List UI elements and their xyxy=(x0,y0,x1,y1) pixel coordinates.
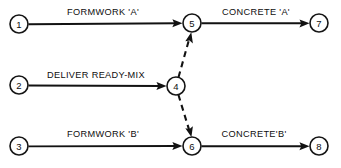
edge-label-formwork-b: FORMWORK 'B' xyxy=(67,129,139,139)
edge-dummy-4-to-5[interactable] xyxy=(179,32,193,77)
edge-line-4-to-5 xyxy=(179,38,190,78)
node-label-1: 1 xyxy=(16,19,21,30)
network-diagram-svg: 1 2 3 4 5 6 xyxy=(0,0,341,168)
network-diagram-canvas: 1 2 3 4 5 6 xyxy=(0,0,341,168)
node-2[interactable]: 2 xyxy=(10,76,28,94)
node-label-7: 7 xyxy=(316,18,321,29)
node-label-6: 6 xyxy=(189,141,194,152)
edge-formwork-a[interactable] xyxy=(29,19,183,27)
edge-label-concrete-b: CONCRETE'B' xyxy=(221,129,286,139)
node-5[interactable]: 5 xyxy=(183,14,201,32)
node-7[interactable]: 7 xyxy=(310,14,328,32)
node-label-5: 5 xyxy=(189,18,194,29)
edge-line-2-to-4 xyxy=(29,86,162,87)
node-3[interactable]: 3 xyxy=(10,137,28,155)
edge-label-formwork-a: FORMWORK 'A' xyxy=(67,7,139,17)
edge-deliver-ready-mix[interactable] xyxy=(29,82,167,90)
node-label-3: 3 xyxy=(16,141,21,152)
edge-line-4-to-6 xyxy=(178,95,189,132)
edge-dummy-4-to-6[interactable] xyxy=(178,95,193,137)
node-label-4: 4 xyxy=(173,81,178,92)
edge-concrete-a[interactable] xyxy=(202,19,310,27)
node-label-2: 2 xyxy=(16,80,21,91)
edge-formwork-b[interactable] xyxy=(29,142,183,150)
node-4[interactable]: 4 xyxy=(167,77,185,95)
node-6[interactable]: 6 xyxy=(183,137,201,155)
node-8[interactable]: 8 xyxy=(310,137,328,155)
edge-label-concrete-a: CONCRETE 'A' xyxy=(222,7,290,17)
edge-label-deliver-ready-mix: DELIVER READY-MIX xyxy=(47,70,145,80)
edge-label-group: FORMWORK 'A' DELIVER READY-MIX FORMWORK … xyxy=(47,7,290,139)
node-label-8: 8 xyxy=(316,141,321,152)
node-1[interactable]: 1 xyxy=(10,15,28,33)
edge-line-1-to-5 xyxy=(29,23,178,24)
edge-concrete-b[interactable] xyxy=(202,142,310,150)
